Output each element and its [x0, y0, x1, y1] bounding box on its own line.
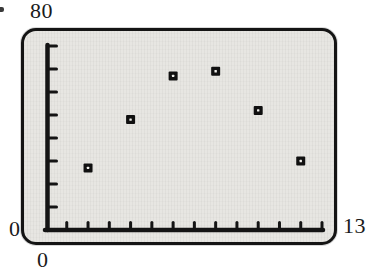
data-point-marker-center	[172, 75, 174, 77]
data-point-marker-center	[214, 70, 216, 72]
scatter-plot-svg	[0, 0, 368, 277]
data-point-marker-center	[300, 160, 302, 162]
data-point-marker-center	[257, 109, 259, 111]
scatter-plot-figure: 80 0 0 13	[0, 0, 368, 277]
data-point-marker-center	[129, 118, 131, 120]
data-point-marker-center	[87, 167, 89, 169]
